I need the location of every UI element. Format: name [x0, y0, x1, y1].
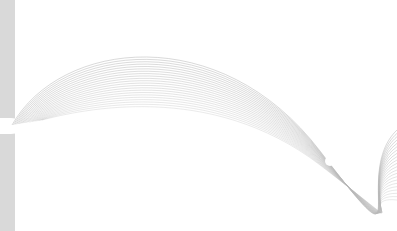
wave-line [22, 74, 397, 214]
wave-line [38, 100, 397, 213]
wave-line [36, 97, 397, 213]
highlight-dot [325, 156, 335, 166]
wave-line [21, 71, 397, 213]
wave-line [31, 88, 397, 213]
wave-line [29, 85, 397, 212]
wave-line [19, 69, 397, 214]
wave-lines-graphic [0, 0, 397, 231]
wave-line [42, 107, 397, 213]
wave-line [13, 59, 397, 213]
wave-line [41, 104, 397, 213]
wave-line [12, 57, 397, 214]
wave-line [35, 95, 397, 213]
wave-line [26, 81, 397, 213]
wave-line [39, 102, 397, 213]
wave-line [28, 83, 397, 213]
